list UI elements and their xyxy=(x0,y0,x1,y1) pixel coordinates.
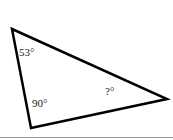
triangle xyxy=(12,29,167,128)
divider-line xyxy=(0,137,173,138)
angle-label-bottom: 90° xyxy=(32,98,47,109)
triangle-figure xyxy=(0,0,173,140)
angle-label-top: 53° xyxy=(19,47,34,58)
angle-label-unknown: ?° xyxy=(105,86,114,97)
